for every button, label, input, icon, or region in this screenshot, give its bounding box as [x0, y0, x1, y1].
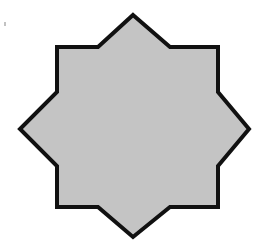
eight-pointed-star-shape: [20, 15, 249, 237]
scan-speck: [4, 22, 6, 26]
figure-canvas: [0, 0, 266, 245]
star-diagram: [0, 0, 266, 245]
